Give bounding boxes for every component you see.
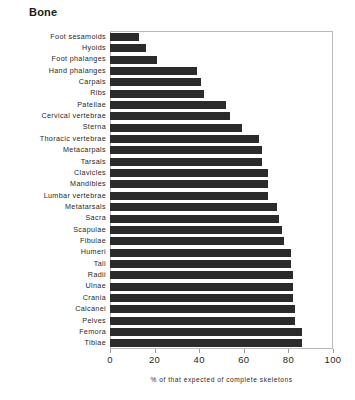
- bar: [110, 192, 268, 200]
- bar: [110, 135, 259, 143]
- y-axis-tick-label: Foot sesamoids: [2, 33, 106, 41]
- y-axis-tick-label: Tarsals: [2, 158, 106, 166]
- y-axis-tick-label: Ribs: [2, 89, 106, 97]
- bar: [110, 124, 242, 132]
- x-axis-tick-mark: [244, 349, 245, 353]
- y-axis-tick-label: Femora: [2, 328, 106, 336]
- y-axis-tick-label: Ulnae: [2, 282, 106, 290]
- bar: [110, 33, 139, 41]
- bar: [110, 226, 282, 234]
- x-axis-title: % of that expected of complete skeletons: [110, 376, 333, 383]
- y-axis-tick-label: Mandibles: [2, 180, 106, 188]
- y-axis-tick-label: Carpals: [2, 78, 106, 86]
- x-axis-tick-label: 40: [194, 354, 205, 365]
- x-axis-tick-mark: [199, 349, 200, 353]
- y-axis-tick-label: Clavicles: [2, 169, 106, 177]
- y-axis-tick-label: Radii: [2, 271, 106, 279]
- y-axis-tick-label: Thoracic vertebrae: [2, 135, 106, 143]
- bar: [110, 260, 291, 268]
- y-axis-tick-label: Patellae: [2, 101, 106, 109]
- bar: [110, 101, 226, 109]
- bar: [110, 67, 197, 75]
- x-axis-tick-mark: [288, 349, 289, 353]
- y-axis-tick-label: Humeri: [2, 248, 106, 256]
- x-axis-tick-mark: [110, 349, 111, 353]
- x-axis-tick-label: 80: [283, 354, 294, 365]
- bar: [110, 317, 295, 325]
- y-axis-tick-label: Scapulae: [2, 226, 106, 234]
- y-axis-tick-label: Sterna: [2, 123, 106, 131]
- bar: [110, 237, 284, 245]
- x-axis-tick-mark: [155, 349, 156, 353]
- bar: [110, 305, 295, 313]
- y-axis-tick-label: Hand phalanges: [2, 67, 106, 75]
- y-axis-tick-label: Sacra: [2, 214, 106, 222]
- y-axis-tick-label: Crania: [2, 294, 106, 302]
- bar: [110, 339, 302, 347]
- y-axis-tick-label: Calcanei: [2, 305, 106, 313]
- x-axis-tick-label: 100: [325, 354, 342, 365]
- bar: [110, 294, 293, 302]
- bar: [110, 112, 230, 120]
- bar: [110, 203, 277, 211]
- chart-page: Bone Foot sesamoidsHyoidsFoot phalangesH…: [0, 0, 355, 400]
- y-axis-tick-label: Fibulae: [2, 237, 106, 245]
- y-axis-tick-label: Lumbar vertebrae: [2, 192, 106, 200]
- x-axis-tick-mark: [333, 349, 334, 353]
- bar: [110, 328, 302, 336]
- y-axis-tick-label: Metacarpals: [2, 146, 106, 154]
- x-axis-tick-label: 20: [149, 354, 160, 365]
- bars-layer: [110, 31, 333, 349]
- y-axis-tick-label: Tali: [2, 260, 106, 268]
- x-axis: 020406080100: [110, 349, 333, 379]
- y-axis-tick-label: Foot phalanges: [2, 55, 106, 63]
- y-axis-tick-label: Cervical vertebrae: [2, 112, 106, 120]
- y-axis-category-labels: Foot sesamoidsHyoidsFoot phalangesHand p…: [0, 31, 106, 349]
- bar: [110, 56, 157, 64]
- bar: [110, 215, 279, 223]
- bar: [110, 146, 262, 154]
- bar: [110, 78, 201, 86]
- y-axis-tick-label: Hyoids: [2, 44, 106, 52]
- y-axis-tick-label: Metatarsals: [2, 203, 106, 211]
- bar: [110, 249, 291, 257]
- y-axis-tick-label: Tibiae: [2, 339, 106, 347]
- bar: [110, 283, 293, 291]
- bar: [110, 180, 268, 188]
- bar: [110, 169, 268, 177]
- y-axis-tick-label: Pelves: [2, 317, 106, 325]
- bar: [110, 90, 204, 98]
- bar: [110, 271, 293, 279]
- bar: [110, 158, 262, 166]
- x-axis-tick-label: 0: [107, 354, 113, 365]
- x-axis-tick-label: 60: [238, 354, 249, 365]
- page-title: Bone: [29, 6, 57, 18]
- bar: [110, 44, 146, 52]
